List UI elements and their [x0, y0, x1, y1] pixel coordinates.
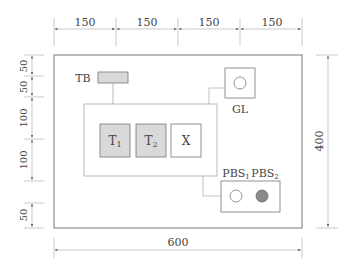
tb-label: TB — [75, 72, 90, 85]
gl-lamp-icon — [234, 77, 246, 89]
left-dim-label-3: 100 — [18, 108, 29, 127]
left-dim-label-1: 50 — [18, 60, 29, 73]
right-dim-label: 400 — [313, 131, 326, 152]
bottom-dim-label: 600 — [168, 236, 189, 249]
top-dim-label-2: 150 — [137, 16, 158, 29]
left-dim-label-4: 100 — [18, 150, 29, 169]
top-dim-label-1: 150 — [75, 16, 96, 29]
x-label: X — [182, 134, 191, 148]
pbs2-button-icon — [256, 190, 268, 202]
left-dim-label-2: 50 — [18, 81, 29, 94]
tb-terminal-block — [98, 72, 128, 83]
top-dim-label-3: 150 — [199, 16, 220, 29]
top-dim-label-4: 150 — [262, 16, 283, 29]
left-dim-label-5: 50 — [18, 209, 29, 222]
panel-layout-diagram: 150 150 150 150 50 50 100 100 50 400 600… — [0, 0, 352, 276]
pbs1-button-icon — [230, 190, 242, 202]
gl-label: GL — [232, 103, 249, 116]
